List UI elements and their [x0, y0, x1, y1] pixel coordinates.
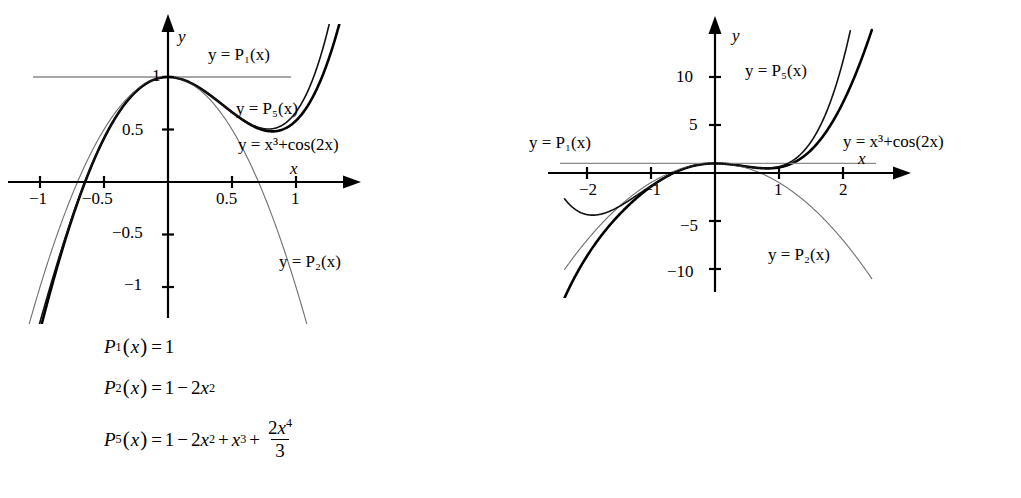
x-tick-label-left-3: 1 — [291, 190, 300, 207]
x-tick-label-left-1: −0.5 — [82, 190, 113, 207]
formula-left-p5-x2: x — [201, 430, 209, 449]
formula-left-p1-name: P — [104, 337, 116, 356]
y-axis-arrow-left — [162, 14, 175, 32]
formula-left-p2-coef: 2 — [191, 378, 201, 397]
y-tick-label-left-2: −0.5 — [112, 224, 143, 241]
formula-left-p2-minus: − — [174, 378, 191, 397]
formula-left-p5-rparen: ) — [139, 429, 148, 450]
curve-label-left-p1: y = P₁(x) — [208, 46, 270, 63]
formula-left-p5-minus: − — [174, 430, 191, 449]
figure-root: y x −1 −0.5 0.5 1 1 0.5 −0.5 −1 y = P₁(x… — [0, 0, 1021, 498]
formula-left-p1-var: x — [131, 337, 139, 356]
formula-left-p5-frac-coef: 2 — [268, 417, 278, 438]
y-tick-label-right-3: −10 — [667, 263, 694, 280]
formula-left-p1: P1 ( x ) = 1 — [104, 336, 297, 357]
y-tick-label-left-1: 0.5 — [122, 121, 143, 138]
x-axis-name-left: x — [290, 160, 298, 177]
formula-left-p2-x: x — [201, 378, 209, 397]
y-axis-name-right: y — [732, 27, 740, 44]
curve-label-right-p1: y = P₁(x) — [529, 134, 591, 151]
formula-left-p1-rhs: 1 — [165, 337, 175, 356]
axis-group-right — [548, 32, 895, 292]
x-axis-arrow-left — [343, 176, 361, 189]
formula-left-p5-name: P — [104, 430, 116, 449]
formula-left-p5-frac-den: 3 — [271, 439, 289, 461]
x-tick-label-right-2: 1 — [774, 181, 783, 198]
formula-left-p5-plus2: + — [246, 430, 263, 449]
formula-left-p5-fraction: 2x4 3 — [264, 418, 296, 461]
x-tick-label-right-1: −1 — [643, 181, 661, 198]
formula-left-p5-lparen: ( — [122, 429, 131, 450]
formula-left-p5-coef2: 2 — [191, 430, 201, 449]
x-tick-label-left-2: 0.5 — [216, 190, 237, 207]
formula-left-p5-frac-num: 2x4 — [264, 418, 296, 439]
y-axis-name-left: y — [178, 28, 186, 45]
y-tick-label-right-2: −5 — [680, 217, 698, 234]
formula-left-p5-x3: x — [232, 430, 240, 449]
formula-block-left: P1 ( x ) = 1 P2 ( x ) = 1 − 2x2 P5 ( x — [104, 336, 297, 461]
x-tick-label-right-0: −2 — [579, 181, 597, 198]
curve-label-left-p5: y = P₅(x) — [236, 100, 298, 117]
formula-left-p2-eq: = — [148, 378, 165, 397]
y-axis-arrow-right — [709, 16, 722, 34]
x-axis-name-right: x — [858, 150, 866, 167]
x-tick-label-right-3: 2 — [839, 181, 848, 198]
curve-label-left-p2: y = P₂(x) — [279, 253, 341, 270]
y-tick-label-left-0: 1 — [152, 67, 161, 84]
curve-label-right-function: y = x³+cos(2x) — [843, 133, 944, 150]
formula-left-p5-one: 1 — [165, 430, 175, 449]
formula-left-p5-frac-var: x — [278, 417, 286, 438]
curve-label-right-p5: y = P₅(x) — [745, 62, 807, 79]
formula-left-p1-rparen: ) — [139, 336, 148, 357]
formula-left-p2-lparen: ( — [122, 377, 131, 398]
y-tick-label-right-0: 10 — [676, 68, 693, 85]
curve-label-left-function: y = x³+cos(2x) — [238, 136, 339, 153]
formula-left-p5-var: x — [131, 430, 139, 449]
panel-left: y x −1 −0.5 0.5 1 1 0.5 −0.5 −1 y = P₁(x… — [0, 0, 470, 498]
x-tick-label-left-0: −1 — [29, 190, 47, 207]
curve-label-right-p2: y = P₂(x) — [768, 246, 830, 263]
formula-left-p2: P2 ( x ) = 1 − 2x2 — [104, 377, 297, 398]
curve-right-series-3 — [565, 31, 851, 215]
formula-left-p5-eq: = — [148, 430, 165, 449]
formula-left-p2-name: P — [104, 378, 116, 397]
y-tick-label-left-3: −1 — [124, 276, 142, 293]
formula-left-p5: P5 ( x ) = 1 − 2x2 + x3 + 2x4 3 — [104, 418, 297, 461]
formula-left-p2-one: 1 — [165, 378, 175, 397]
formula-left-p1-lparen: ( — [122, 336, 131, 357]
formula-left-p1-eq: = — [148, 337, 165, 356]
y-tick-label-right-1: 5 — [689, 116, 698, 133]
formula-left-p2-rparen: ) — [139, 377, 148, 398]
formula-left-p5-plus1: + — [215, 430, 232, 449]
x-axis-arrow-right — [893, 167, 911, 180]
panel-right: y x −2 −1 1 2 10 5 −5 −10 y = P₁(x) y = … — [500, 0, 1021, 498]
formula-left-p5-frac-pow: 4 — [286, 416, 292, 430]
formula-left-p2-var: x — [131, 378, 139, 397]
